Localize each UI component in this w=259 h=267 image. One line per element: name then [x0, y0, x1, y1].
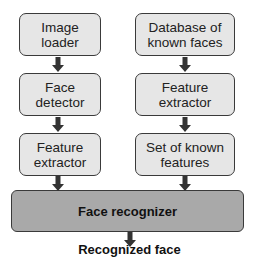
arrow-down-icon: [179, 117, 191, 132]
arrow-down-icon: [52, 117, 64, 132]
node-label-line: extractor: [159, 95, 212, 110]
set-known-features-node: Set of knownfeatures: [135, 133, 235, 176]
arrow-down-icon: [52, 176, 64, 191]
image-loader-node: Imageloader: [19, 13, 101, 56]
face-detector-node: Facedetector: [19, 73, 101, 116]
arrow-down-icon: [52, 57, 64, 72]
node-label-line: Feature: [37, 140, 84, 155]
feature-extractor-left-node: Featureextractor: [19, 133, 101, 176]
node-label-line: Set of known: [146, 140, 224, 155]
node-label-line: loader: [41, 35, 79, 50]
node-label-line: Feature: [162, 80, 209, 95]
node-label: Face recognizer: [78, 204, 177, 219]
node-label-line: detector: [36, 95, 85, 110]
recognized-face-output: Recognized face: [0, 242, 259, 257]
arrow-down-icon: [179, 57, 191, 72]
database-known-faces-node: Database ofknown faces: [135, 13, 235, 56]
node-label-line: Database of: [149, 20, 222, 35]
arrow-down-icon: [179, 176, 191, 191]
node-label-line: known faces: [147, 35, 222, 50]
face-recognizer-node: Face recognizer: [11, 190, 244, 232]
node-label-line: Image: [41, 20, 79, 35]
node-label-line: extractor: [34, 155, 87, 170]
node-label-line: features: [161, 155, 210, 170]
feature-extractor-right-node: Featureextractor: [135, 73, 235, 116]
node-label-line: Face: [45, 80, 75, 95]
